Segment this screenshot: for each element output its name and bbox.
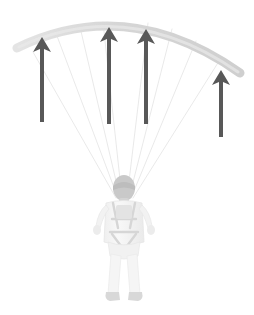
pilot-right-boot — [128, 292, 143, 301]
pilot-left-hand — [93, 225, 101, 235]
arrow-stem — [219, 79, 223, 137]
arrow-stem — [144, 38, 148, 124]
pilot-right-hand — [147, 225, 155, 235]
pilot-left-boot — [106, 292, 121, 301]
paraglider-diagram — [0, 0, 254, 315]
arrow-stem — [40, 46, 44, 122]
harness-back-panel — [116, 205, 132, 219]
arrow-stem — [107, 36, 111, 124]
diagram-canvas — [0, 0, 254, 315]
